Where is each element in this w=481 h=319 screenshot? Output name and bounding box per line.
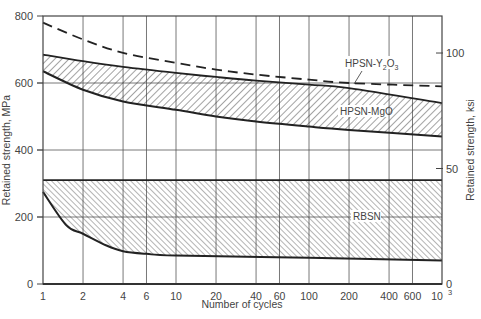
- y-tick-label: 200: [15, 211, 33, 223]
- data-bands: [43, 55, 442, 261]
- x-tick-label: 200: [340, 290, 358, 302]
- axis-labels: 0200400600800124610204060100200400600103…: [0, 10, 476, 310]
- x-tick-label: 600: [404, 290, 422, 302]
- y-tick-label: 400: [15, 144, 33, 156]
- band-rbsn: [43, 180, 442, 260]
- x-axis-title: Number of cycles: [201, 298, 282, 310]
- x-tick-label: 2: [80, 290, 86, 302]
- y-axis-title: Retained strength, MPa: [0, 95, 12, 205]
- leader-line: [354, 71, 362, 84]
- y-tick-label: 0: [27, 278, 33, 290]
- x-tick-label: 100: [300, 290, 318, 302]
- x-tick-label: 10: [170, 290, 182, 302]
- label-rbsn: RBSN: [353, 211, 381, 222]
- label-hpsn-mgo: HPSN-MgO: [340, 106, 393, 117]
- y-axis-right-title: Retained strength, ksi: [464, 99, 476, 201]
- x-tick-label: 1: [40, 290, 46, 302]
- y-tick-label: 800: [15, 10, 33, 22]
- x-tick-label: 4: [120, 290, 126, 302]
- y-right-tick-label: 50: [446, 163, 458, 175]
- retained-strength-chart: 0200400600800124610204060100200400600103…: [0, 0, 481, 319]
- x-tick-label: 400: [380, 290, 398, 302]
- y-right-tick-label: 100: [446, 47, 464, 59]
- label-hpsn-y2o3: HPSN-Y2O3: [345, 58, 398, 71]
- x-tick-label: 6: [144, 290, 150, 302]
- y-right-tick-label: 0: [446, 278, 452, 290]
- y-tick-label: 600: [15, 77, 33, 89]
- x-tick-label: 10: [431, 290, 443, 302]
